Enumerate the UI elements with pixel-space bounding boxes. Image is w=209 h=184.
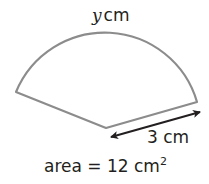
radius-label: 3 cm: [147, 129, 189, 146]
arc-length-label: ycm: [92, 7, 130, 24]
arc-length-variable: y: [92, 5, 102, 25]
sector-outline: [16, 33, 197, 128]
sector-diagram: ycm 3 cm area = 12 cm2: [0, 0, 209, 184]
area-text: area = 12 cm: [44, 156, 160, 176]
arc-length-unit: cm: [104, 5, 130, 25]
area-exponent: 2: [160, 155, 167, 168]
area-label: area = 12 cm2: [44, 158, 167, 175]
